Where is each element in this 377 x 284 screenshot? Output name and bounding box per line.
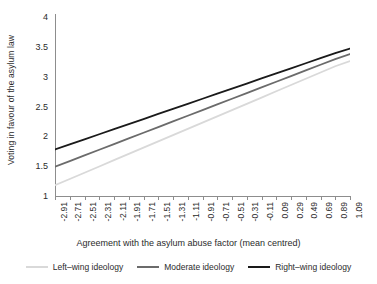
legend-line-icon: [248, 266, 270, 268]
x-tick-label: -0.11: [265, 202, 275, 221]
y-tick-label: 4: [18, 12, 52, 22]
chart-figure: Voting in favour of the asylum law 11.52…: [0, 0, 377, 284]
x-tick-label: -2.51: [88, 202, 98, 221]
x-tick-mark: [173, 197, 174, 200]
legend-item[interactable]: Right–wing ideology: [248, 262, 351, 272]
x-tick-label: -2.91: [59, 202, 69, 221]
x-tick-label: 0.09: [280, 202, 290, 219]
x-tick-label: 0.89: [339, 202, 349, 219]
x-tick-mark: [291, 197, 292, 200]
x-tick-mark: [55, 197, 56, 200]
y-axis-title-text: Voting in favour of the asylum law: [6, 35, 16, 165]
x-tick-label: -1.71: [147, 202, 157, 221]
y-tick-label: 3: [18, 72, 52, 82]
x-tick-mark: [114, 197, 115, 200]
legend-item[interactable]: Moderate ideology: [137, 262, 234, 272]
x-tick-label: -2.31: [103, 202, 113, 221]
legend-line-icon: [137, 266, 159, 268]
legend-line-icon: [26, 266, 48, 268]
series-line: [55, 54, 350, 167]
y-tick-label: 1: [18, 191, 52, 201]
x-tick-label: -0.31: [250, 202, 260, 221]
x-tick-label: 0.69: [324, 202, 334, 219]
x-tick-mark: [144, 197, 145, 200]
x-tick-mark: [350, 197, 351, 200]
x-tick-mark: [335, 197, 336, 200]
x-tick-label: -2.11: [118, 202, 128, 221]
x-tick-mark: [217, 197, 218, 200]
x-tick-label: -1.31: [177, 202, 187, 221]
y-tick-label: 3.5: [18, 42, 52, 52]
x-tick-label: -1.11: [191, 202, 201, 221]
y-tick-label: 2.5: [18, 102, 52, 112]
x-axis-title: Agreement with the asylum abuse factor (…: [0, 238, 377, 248]
x-tick-mark: [262, 197, 263, 200]
legend-label: Left–wing ideology: [53, 262, 123, 272]
x-tick-mark: [321, 197, 322, 200]
y-tick-label: 1.5: [18, 161, 52, 171]
x-tick-mark: [306, 197, 307, 200]
plot-area: [55, 17, 350, 196]
series-line: [55, 61, 350, 185]
legend-item[interactable]: Left–wing ideology: [26, 262, 123, 272]
x-tick-label: -0.71: [221, 202, 231, 221]
x-tick-mark: [203, 197, 204, 200]
x-tick-mark: [85, 197, 86, 200]
x-tick-mark: [129, 197, 130, 200]
x-tick-mark: [70, 197, 71, 200]
x-axis-tick-labels: -2.91-2.71-2.51-2.31-2.11-1.91-1.71-1.51…: [55, 197, 350, 237]
x-tick-mark: [158, 197, 159, 200]
x-tick-mark: [232, 197, 233, 200]
x-tick-mark: [276, 197, 277, 200]
x-tick-mark: [247, 197, 248, 200]
x-tick-label: -2.71: [73, 202, 83, 221]
x-tick-label: 0.29: [295, 202, 305, 219]
x-tick-label: -0.91: [206, 202, 216, 221]
legend-label: Moderate ideology: [164, 262, 234, 272]
legend-label: Right–wing ideology: [275, 262, 351, 272]
series-line: [55, 49, 350, 150]
x-tick-mark: [188, 197, 189, 200]
x-tick-label: -0.51: [236, 202, 246, 221]
x-tick-label: 1.09: [354, 202, 364, 219]
chart-legend: Left–wing ideologyModerate ideologyRight…: [0, 262, 377, 272]
x-tick-mark: [99, 197, 100, 200]
y-tick-label: 2: [18, 131, 52, 141]
x-tick-label: 0.49: [309, 202, 319, 219]
x-tick-label: -1.91: [132, 202, 142, 221]
x-tick-label: -1.51: [162, 202, 172, 221]
series-lines: [55, 17, 350, 196]
